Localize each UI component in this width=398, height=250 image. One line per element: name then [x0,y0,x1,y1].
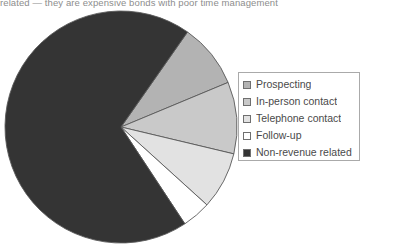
legend-item-follow-up[interactable]: Follow-up [243,127,359,144]
legend-swatch-in-person-contact [243,98,251,106]
legend-item-non-revenue-related[interactable]: Non-revenue related [243,144,359,161]
legend-swatch-prospecting [243,81,251,89]
legend-swatch-telephone-contact [243,115,251,123]
legend-label-non-revenue-related: Non-revenue related [256,144,352,161]
legend-label-in-person-contact: In-person contact [256,93,337,110]
legend-item-telephone-contact[interactable]: Telephone contact [243,110,359,127]
legend-item-in-person-contact[interactable]: In-person contact [243,93,359,110]
legend-item-prospecting[interactable]: Prospecting [243,76,359,93]
chart-legend: Prospecting In-person contact Telephone … [238,72,360,161]
legend-label-telephone-contact: Telephone contact [256,110,341,127]
legend-label-follow-up: Follow-up [256,127,302,144]
legend-label-prospecting: Prospecting [256,76,311,93]
legend-swatch-follow-up [243,132,251,140]
legend-swatch-non-revenue-related [243,149,251,157]
